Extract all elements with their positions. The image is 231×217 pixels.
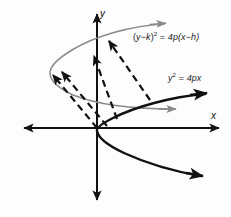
standard-equation-label: y2 = 4px bbox=[168, 73, 201, 83]
translated-eq-exponent: 2 bbox=[154, 31, 157, 37]
x-axis-label: x bbox=[211, 110, 216, 121]
standard-eq-equals: = bbox=[179, 73, 184, 83]
translation-arrow-2 bbox=[62, 72, 107, 126]
translated-eq-equals: = bbox=[160, 32, 165, 42]
translated-eq-rhs: 4p(x−h) bbox=[168, 32, 199, 42]
y-axis-label: y bbox=[100, 8, 105, 19]
translation-arrows bbox=[53, 41, 150, 128]
translated-equation-label: (y−k)2 = 4p(x−h) bbox=[133, 32, 199, 42]
translation-arrow-4 bbox=[109, 41, 150, 100]
parabola-translation-figure: (y−k)2 = 4p(x−h) y2 = 4px y x bbox=[0, 0, 231, 217]
standard-eq-exponent: 2 bbox=[173, 72, 176, 78]
standard-parabola-lower-arrow bbox=[186, 173, 203, 176]
standard-eq-rhs: 4px bbox=[187, 73, 202, 83]
translation-arrow-1 bbox=[53, 75, 97, 128]
